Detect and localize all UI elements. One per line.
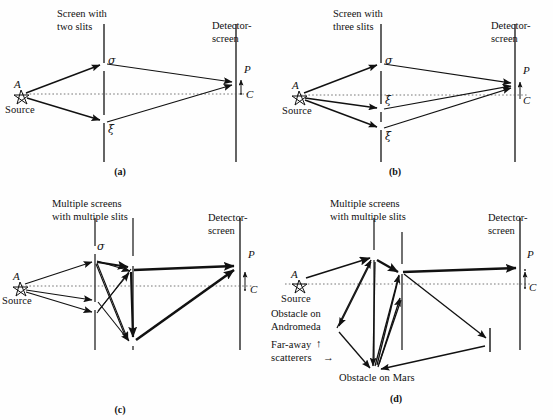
panel-c-screen-header: Multiple screens with multiple slits — [52, 198, 128, 223]
ray-source-to-slit-xi-a — [27, 98, 100, 120]
ray-source-to-slit-xi1-b — [305, 98, 377, 108]
detector-point-label-c: P — [248, 248, 255, 260]
panel-b: Screen with three slits Detector- screen… — [277, 0, 553, 180]
center-dot-d — [524, 287, 526, 289]
panel-b-screen-header: Screen with three slits — [333, 8, 383, 33]
slit-label-sigma-c: σ — [97, 240, 105, 253]
panel-b-detector-header: Detector- screen — [491, 20, 530, 45]
panel-d: Multiple screens with multiple slits Det… — [277, 180, 553, 420]
detector-center-label-a: C — [246, 88, 253, 100]
far-away-scatterers-line2-d: scatterers — [271, 352, 312, 364]
source-point-label-a: A — [14, 78, 21, 90]
center-dot-c — [244, 289, 246, 291]
ray-slit-xi-to-detector-a — [107, 85, 232, 122]
source-star-d — [292, 280, 307, 293]
slit-label-sigma-b: σ — [385, 54, 393, 67]
panel-b-caption: (b) — [375, 166, 415, 177]
slit-label-xi-a: ξ — [108, 123, 114, 136]
ray-source-to-slit-sigma-c — [25, 262, 92, 284]
slit-label-xi2-b: ξ — [385, 130, 391, 143]
detector-center-label-c: C — [250, 283, 257, 295]
scatterer-right-arrow-icon: → — [323, 351, 334, 363]
source-point-label-b: A — [292, 79, 299, 91]
source-point-label-c: A — [13, 270, 20, 282]
scatterer-up-arrow-icon: ↑ — [316, 337, 322, 349]
obstacle-andromeda-label-d: Obstacle on Andromeda — [271, 308, 321, 333]
ray-screen2-to-detector-bold-d — [403, 268, 516, 272]
ray-screen2-to-detector-upper-bold-c — [134, 266, 234, 270]
panel-a-detector-header: Detector- screen — [212, 20, 251, 45]
figure-container: Screen with two slits Detector- screen σ… — [0, 0, 553, 420]
panel-c-caption: (c) — [100, 404, 140, 415]
panel-c-detector-header: Detector- screen — [208, 212, 247, 237]
panel-a: Screen with two slits Detector- screen σ… — [0, 0, 277, 180]
ray-sigma-to-screen2-lower-c — [97, 263, 128, 340]
ray-screen1-to-andromeda-d — [339, 262, 371, 326]
ray-source-to-slit-sigma-b — [304, 65, 377, 93]
ray-screen1-to-screen2-bold-d — [377, 260, 398, 272]
ray-screen2-down-to-mars-d — [377, 276, 399, 365]
ray-source-to-screen1-bold-d — [306, 258, 370, 278]
obstacle-mars-label-d: Obstacle on Mars — [339, 372, 415, 384]
detector-point-label-d: P — [527, 248, 534, 260]
ray-far-obstacle-to-mars-d — [381, 346, 485, 369]
ray-slit-sigma-to-detector-b — [384, 64, 511, 83]
source-text-label-d: Source — [281, 293, 311, 305]
ray-source-to-slit-xi2-b — [305, 100, 377, 127]
source-text-label-a: Source — [5, 104, 35, 116]
panel-d-detector-header: Detector- screen — [488, 212, 527, 237]
source-text-label-b: Source — [282, 105, 312, 117]
ray-sigma-down-cross-c — [96, 264, 126, 338]
ray-slit-xi2-to-detector-b — [384, 88, 511, 128]
far-away-scatterers-line1-d: Far-away — [271, 339, 311, 351]
point-dot-d — [524, 269, 526, 271]
ray-source-to-slit-sigma-a — [26, 65, 100, 93]
panel-d-caption: (d) — [376, 393, 416, 404]
ray-screen2-to-detector-lower-bold-c — [136, 270, 234, 340]
detector-center-label-d: C — [529, 281, 536, 293]
panel-d-screen-header: Multiple screens with multiple slits — [330, 198, 406, 223]
detector-center-label-b: C — [523, 94, 530, 106]
ray-andromeda-to-mars-d — [339, 332, 370, 368]
slit-label-sigma-a: σ — [108, 54, 116, 67]
ray-slit-sigma-to-detector-a — [107, 64, 232, 82]
slit-label-xi1-b: ξ — [385, 94, 391, 107]
source-point-label-d: A — [291, 268, 298, 280]
detector-point-label-a: P — [244, 63, 251, 75]
detector-point-label-b: P — [523, 64, 530, 76]
center-dot-a — [240, 93, 242, 95]
panel-a-screen-header: Screen with two slits — [57, 8, 107, 33]
ray-andromeda-to-screen1-d — [337, 260, 371, 328]
panel-c: Multiple screens with multiple slits Det… — [0, 180, 277, 420]
panel-a-caption: (a) — [100, 166, 140, 177]
source-text-label-c: Source — [2, 295, 32, 307]
ray-slit-xi1-to-detector-b — [384, 86, 511, 109]
